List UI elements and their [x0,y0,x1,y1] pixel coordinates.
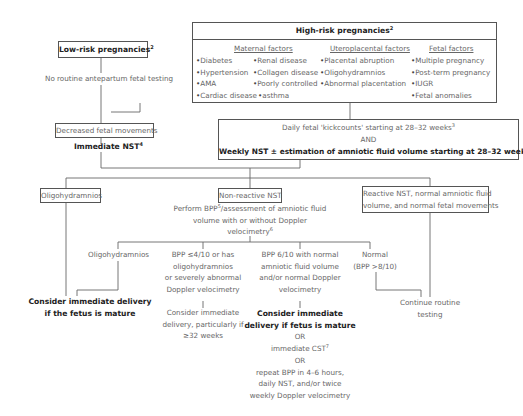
factor-item: Post-term pregnancy [411,67,490,79]
surveillance-box: Daily fetal 'kickcounts' starting at 28–… [218,119,519,160]
factor-item: IUGR [411,78,490,90]
and-text: AND [219,134,518,146]
low-risk-title: Low-risk pregnancies [59,45,150,54]
factor-item: AMA [196,78,257,90]
uteroplacental-factors-heading: Uteroplacental factors [330,43,410,55]
factor-item: Cardiac disease [196,90,257,102]
sub-bpp-severe: BPP ≤4/10 or has oligohydramnios or seve… [163,249,243,296]
decreased-fetal-movements-box: Decreased fetal movements [55,123,154,138]
sub-six-action: Consider immediate delivery if fetus is … [240,308,360,402]
maternal-factors-heading: Maternal factors [234,43,293,55]
sub-oligohydramnios: Oligohydramnios [88,249,148,261]
fetal-factors-list: Multiple pregnancy Post-term pregnancy I… [411,55,490,102]
factor-item: Renal disease [253,55,318,67]
sub-bpp-six: BPP 6/10 with normal amniotic fluid volu… [255,249,345,296]
factor-item: Abnormal placentation [320,78,406,90]
reactive-label: Reactive NST, normal amniotic fluid volu… [363,188,488,211]
kickcounts-text: Daily fetal 'kickcounts' starting at 28–… [219,122,518,134]
immediate-nst-text: Immediate NST4 [74,141,143,153]
factor-item: Placental abruption [320,55,406,67]
high-risk-title: High-risk pregnancies [296,26,390,35]
continue-routine-testing: Continue routine testing [395,297,465,320]
uteroplacental-factors-list: Placental abruption Oligohydramnios Abno… [320,55,406,90]
low-risk-note: No routine antepartum fetal testing [44,73,174,85]
factor-item: Fetal anomalies [411,90,490,102]
non-reactive-nst-box: Non-reactive NST [218,188,282,203]
factor-item: Hypertension [196,67,257,79]
reactive-nst-box: Reactive NST, normal amniotic fluid volu… [362,186,489,213]
sub-normal: Normal (BPP >8/10) [350,249,400,272]
factor-item: Multiple pregnancy [411,55,490,67]
high-risk-header: High-risk pregnancies2 [193,23,496,40]
factor-item: Oligohydramnios [320,67,406,79]
factor-item: Diabetes [196,55,257,67]
fetal-factors-heading: Fetal factors [429,43,473,55]
decreased-label: Decreased fetal movements [56,125,153,137]
non-reactive-label: Non-reactive NST [219,190,281,202]
maternal-factors-col2: Renal disease Collagen disease Poorly co… [253,55,318,102]
weekly-nst-text: Weekly NST ± estimation of amniotic flui… [219,146,518,158]
factor-item: Collagen disease [253,67,318,79]
factor-item-continued: asthma [253,90,318,102]
oligohydramnios-box: Oligohydramnios [40,188,101,203]
maternal-factors-col1: Diabetes Hypertension AMA Cardiac diseas… [196,55,257,102]
high-risk-box: High-risk pregnancies2 Maternal factors … [192,22,497,103]
factor-item: Poorly controlled [253,78,318,90]
sub-severe-action: Consider immediate delivery, particularl… [158,307,248,342]
perform-bpp-text: Perform BPP5/assessment of amniotic flui… [170,203,330,238]
oligohydramnios-label: Oligohydramnios [41,190,100,202]
low-risk-box: Low-risk pregnancies2 [58,41,148,58]
oligo-outcome: Consider immediate delivery if the fetus… [20,296,160,319]
